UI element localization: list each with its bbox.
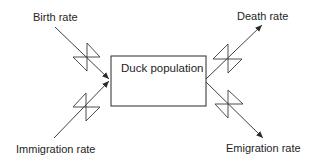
birth-rate-flow bbox=[55, 27, 109, 79]
immigration-rate-arrow bbox=[54, 81, 109, 138]
immigration-rate-label: Immigration rate bbox=[16, 144, 95, 155]
stock-label: Duck population bbox=[121, 63, 203, 75]
death-rate-flow bbox=[206, 25, 262, 79]
immigration-rate-flow bbox=[54, 81, 109, 138]
death-rate-label: Death rate bbox=[237, 11, 288, 22]
death-rate-arrow bbox=[206, 25, 262, 79]
emigration-rate-arrow bbox=[206, 82, 263, 138]
immigration-rate-valve-icon bbox=[73, 93, 100, 121]
emigration-rate-label: Emigration rate bbox=[226, 143, 301, 154]
diagram-canvas bbox=[0, 0, 313, 162]
birth-rate-arrow bbox=[55, 27, 109, 79]
stock-flow-diagram: Duck population Birth rate Immigration r… bbox=[0, 0, 313, 162]
birth-rate-label: Birth rate bbox=[33, 12, 78, 23]
emigration-rate-flow bbox=[206, 82, 263, 138]
